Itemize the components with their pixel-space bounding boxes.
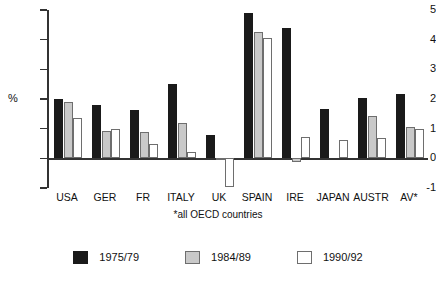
bar-japan-1975-79 (320, 109, 329, 158)
category-label-ger: GER (86, 192, 124, 203)
y-axis-tick (40, 187, 47, 189)
bar-spain-1990-92 (263, 38, 272, 158)
category-label-usa: USA (48, 192, 86, 203)
bar-usa-1984-89 (64, 102, 73, 158)
bar-uk-1984-89 (216, 158, 225, 160)
category-label-fr: FR (124, 192, 162, 203)
category-label-av: AV* (390, 192, 428, 203)
y-axis-tick (40, 39, 47, 41)
y-axis-title: % (8, 93, 18, 104)
legend-item-1984-89: 1984/89 (185, 251, 251, 264)
bar-japan-1990-92 (339, 140, 348, 158)
bar-italy-1990-92 (187, 152, 196, 159)
bar-italy-1975-79 (168, 84, 177, 158)
bar-uk-1990-92 (225, 158, 234, 186)
bar-ger-1975-79 (92, 105, 101, 158)
legend-label: 1975/79 (99, 252, 139, 263)
plot-area (48, 10, 428, 188)
category-label-spain: SPAIN (238, 192, 276, 203)
category-label-japan: JAPAN (314, 192, 352, 203)
bar-ire-1984-89 (292, 158, 301, 162)
y-axis-tick (40, 158, 47, 160)
chart-footnote: *all OECD countries (0, 209, 436, 220)
y-axis-tick (40, 69, 47, 71)
bar-usa-1975-79 (54, 99, 63, 158)
bar-chart: 543210-1 % USAGERFRITALYUKSPAINIREJAPANA… (0, 0, 436, 281)
chart-legend: 1975/791984/891990/92 (0, 246, 436, 268)
legend-item-1990-92: 1990/92 (297, 251, 363, 264)
bar-av-1990-92 (415, 129, 424, 159)
bar-uk-1975-79 (206, 135, 215, 159)
legend-label: 1984/89 (211, 252, 251, 263)
y-axis-tick (40, 9, 47, 11)
category-label-ire: IRE (276, 192, 314, 203)
legend-label: 1990/92 (323, 252, 363, 263)
y-axis-tick (40, 128, 47, 130)
legend-item-1975-79: 1975/79 (73, 251, 139, 264)
bar-spain-1984-89 (254, 32, 263, 158)
y-axis-tick (40, 98, 47, 100)
legend-swatch-icon (297, 251, 312, 264)
bar-austr-1984-89 (368, 116, 377, 158)
bar-austr-1975-79 (358, 98, 367, 159)
bar-spain-1975-79 (244, 13, 253, 158)
bar-ger-1984-89 (102, 131, 111, 158)
legend-swatch-icon (185, 251, 200, 264)
bar-austr-1990-92 (377, 138, 386, 158)
legend-swatch-icon (73, 251, 88, 264)
category-label-austr: AUSTR (352, 192, 390, 203)
bar-av-1975-79 (396, 94, 405, 159)
category-label-uk: UK (200, 192, 238, 203)
bar-av-1984-89 (406, 127, 415, 158)
bar-usa-1990-92 (73, 118, 82, 158)
bar-fr-1975-79 (130, 110, 139, 158)
bar-fr-1984-89 (140, 132, 149, 158)
category-label-italy: ITALY (162, 192, 200, 203)
bar-ire-1990-92 (301, 137, 310, 158)
bar-italy-1984-89 (178, 123, 187, 159)
bar-fr-1990-92 (149, 144, 158, 159)
bar-ire-1975-79 (282, 28, 291, 159)
bar-ger-1990-92 (111, 129, 120, 158)
